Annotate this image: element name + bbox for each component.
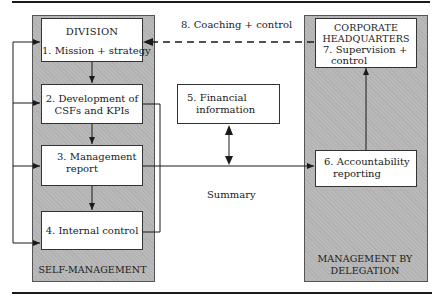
summary-label: Summary [207,189,256,201]
box6-line2: reporting [333,168,381,180]
self-management-label: SELF-MANAGEMENT [32,264,153,276]
box-corporate-headquarters: CORPORATE HEADQUARTERS 7. Supervision + … [315,18,417,68]
box-financial-information: 5. Financial information [177,84,280,124]
delegation-line1: MANAGEMENT BY [304,253,426,265]
box2-line1: 2. Development of [42,93,142,105]
box4-label: 4. Internal control [42,225,142,237]
division-title: DIVISION [42,26,142,38]
box2-line2: CSFs and KPIs [42,105,142,117]
coaching-control-label: 8. Coaching + control [181,19,292,31]
box3-line1: 3. Management [57,151,137,163]
box7-line2: control [331,55,367,67]
box5-line1: 5. Financial [187,92,247,104]
box-csf-kpi: 2. Development of CSFs and KPIs [41,84,143,124]
box-management-report: 3. Management report [41,145,143,186]
box3-line2: report [66,163,98,175]
box-mission-strategy: DIVISION 1. Mission + strategy [41,18,143,62]
box-accountability-reporting: 6. Accountability reporting [315,150,417,187]
box6-line1: 6. Accountability [324,156,410,168]
delegation-line2: DELEGATION [304,265,426,277]
box1-label: 1. Mission + strategy [42,45,142,57]
box-internal-control: 4. Internal control [41,211,143,250]
box5-line2: information [196,104,255,116]
